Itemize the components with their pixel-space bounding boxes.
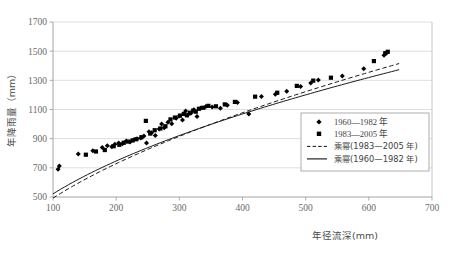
data-point-square bbox=[275, 91, 279, 95]
data-point-square bbox=[144, 119, 148, 123]
data-point-square bbox=[253, 95, 257, 99]
y-axis-title: 年降雨量（mm） bbox=[6, 69, 17, 148]
data-point-square bbox=[122, 141, 126, 145]
data-point-square bbox=[112, 144, 116, 148]
chart-svg: 5007009001100130015001700 10020030040050… bbox=[0, 0, 471, 256]
data-point-square bbox=[223, 102, 227, 106]
data-point-square bbox=[158, 126, 162, 130]
data-point-square bbox=[311, 79, 315, 83]
x-tick-label: 500 bbox=[299, 203, 314, 213]
x-axis-title: 年径流深(mm) bbox=[312, 230, 378, 241]
y-tick-label: 500 bbox=[33, 192, 48, 202]
y-tick-label: 1500 bbox=[28, 47, 47, 57]
data-point-square bbox=[233, 100, 237, 104]
data-point-square bbox=[148, 131, 152, 135]
data-point-square bbox=[386, 50, 390, 54]
x-tick-label: 600 bbox=[362, 203, 377, 213]
y-tick-label: 700 bbox=[33, 163, 48, 173]
data-point-square bbox=[134, 137, 138, 141]
y-tick-label: 900 bbox=[33, 134, 48, 144]
data-point-square bbox=[103, 148, 107, 152]
x-tick-label: 300 bbox=[172, 203, 187, 213]
y-tick-label: 1300 bbox=[28, 76, 47, 86]
x-tick-label: 200 bbox=[109, 203, 124, 213]
data-point-square bbox=[117, 143, 121, 147]
legend: 1960—1982 年1983—2005 年乘幂(1983—2005 年)乘幂(… bbox=[301, 113, 429, 171]
legend-label: 乘幂(1960—1982 年) bbox=[334, 154, 418, 164]
x-tick-label: 700 bbox=[425, 203, 440, 213]
legend-label: 1983—2005 年 bbox=[334, 128, 388, 139]
data-point-square bbox=[94, 149, 98, 153]
data-point-square bbox=[178, 114, 182, 118]
data-point-square bbox=[84, 153, 88, 157]
data-point-square bbox=[214, 104, 218, 108]
data-point-square bbox=[139, 135, 143, 139]
legend-label: 1960—1982 年 bbox=[334, 116, 388, 127]
data-point-square bbox=[130, 138, 134, 142]
data-point-square bbox=[372, 59, 376, 63]
data-point-square bbox=[173, 115, 177, 119]
data-point-square bbox=[163, 124, 167, 128]
chart-figure: 5007009001100130015001700 10020030040050… bbox=[0, 0, 471, 256]
x-tick-label: 400 bbox=[235, 203, 250, 213]
data-point-square bbox=[329, 76, 333, 80]
y-tick-label: 1100 bbox=[28, 105, 47, 115]
data-point-square bbox=[153, 128, 157, 132]
data-point-square bbox=[168, 117, 172, 121]
legend-marker-square bbox=[317, 132, 321, 136]
data-point-square bbox=[295, 84, 299, 88]
data-point-square bbox=[126, 139, 130, 143]
data-point-square bbox=[206, 104, 210, 108]
x-tick-label: 100 bbox=[46, 203, 61, 213]
data-point-square bbox=[197, 107, 201, 111]
data-point-square bbox=[201, 106, 205, 110]
legend-label: 乘幂(1983—2005 年) bbox=[334, 141, 418, 151]
y-tick-label: 1700 bbox=[28, 17, 47, 27]
